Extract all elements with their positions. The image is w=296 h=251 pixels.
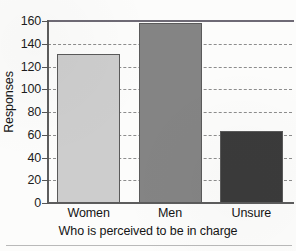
x-axis-tick-label-unsure: Unsure: [211, 206, 292, 220]
bar-men: [139, 23, 202, 203]
page-bottom-rule: [6, 245, 292, 246]
x-axis-tick-label-women: Women: [48, 206, 129, 220]
bars-group: [48, 21, 292, 203]
y-axis-tick: [42, 203, 49, 204]
bar-unsure: [220, 131, 283, 203]
bar-women: [57, 54, 120, 203]
x-axis-title: Who is perceived to be in charge: [0, 224, 296, 238]
y-axis-title-wrapper: Responses: [14, 0, 28, 203]
y-axis-title: Responses: [2, 71, 16, 133]
bar-chart-figure: 020406080100120140160 WomenMenUnsure Res…: [0, 0, 296, 251]
x-axis-tick-label-men: Men: [129, 206, 210, 220]
